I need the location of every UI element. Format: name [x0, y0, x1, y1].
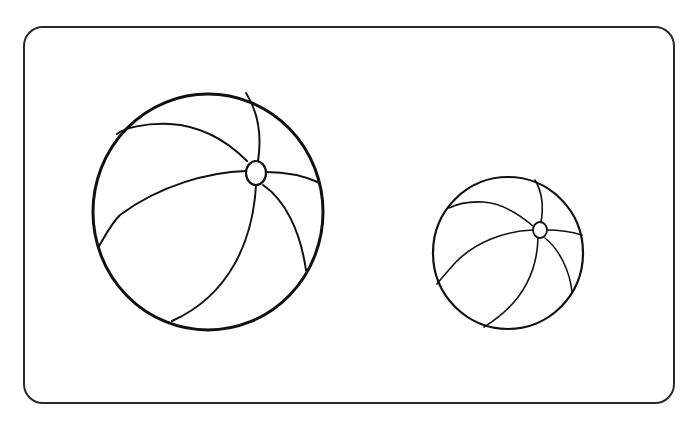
small-beach-ball: [433, 177, 583, 329]
large-beach-ball: [93, 93, 323, 330]
valve-icon: [533, 222, 547, 238]
valve-icon: [246, 161, 266, 185]
